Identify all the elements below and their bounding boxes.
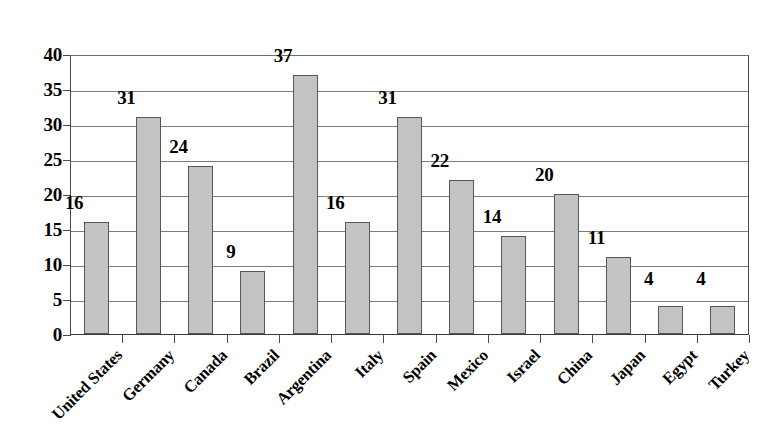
x-axis-tick-mark: [592, 335, 593, 343]
y-axis-tick-label: 40: [16, 45, 62, 64]
bar: [449, 180, 474, 334]
x-axis-tick-mark: [488, 335, 489, 343]
bar: [501, 236, 526, 334]
x-axis-tick-mark: [540, 335, 541, 343]
x-axis-category-label: Japan: [607, 347, 648, 388]
bar-value-label: 9: [209, 242, 253, 261]
y-axis-tick-mark: [63, 335, 71, 336]
x-axis-tick-mark: [227, 335, 228, 343]
y-axis-tick-label: 35: [16, 80, 62, 99]
bar: [658, 306, 683, 334]
x-axis-tick-mark: [436, 335, 437, 343]
bar-value-label: 31: [104, 88, 148, 107]
y-axis-tick-label: 15: [16, 220, 62, 239]
x-axis-tick-mark: [279, 335, 280, 343]
x-axis-tick-mark: [331, 335, 332, 343]
x-axis-tick-mark: [174, 335, 175, 343]
x-axis-category-label: Spain: [400, 347, 440, 387]
x-axis-category-label: Egypt: [660, 347, 701, 388]
x-axis-category-label: Canada: [181, 347, 231, 397]
x-axis-category-label: Italy: [353, 347, 387, 381]
bar: [710, 306, 735, 334]
bar: [554, 194, 579, 334]
bar-value-label: 16: [313, 193, 357, 212]
y-axis-tick-label: 0: [16, 325, 62, 344]
bar: [84, 222, 109, 334]
x-axis-category-label: Israel: [504, 347, 543, 386]
x-axis-tick-mark: [645, 335, 646, 343]
bar-value-label: 14: [470, 207, 514, 226]
y-axis-tick-label: 5: [16, 290, 62, 309]
bar-value-label: 11: [574, 228, 618, 247]
y-axis-tick-label: 25: [16, 150, 62, 169]
bar-value-label: 22: [418, 151, 462, 170]
x-axis-tick-mark: [697, 335, 698, 343]
bar: [240, 271, 265, 334]
x-axis-category-label: Germany: [120, 347, 178, 405]
gridline: [71, 91, 748, 92]
bar-value-label: 24: [157, 137, 201, 156]
y-axis-tick-label: 10: [16, 255, 62, 274]
x-axis-category-label: Turkey: [706, 347, 753, 394]
x-axis-tick-mark: [383, 335, 384, 343]
bar-value-label: 37: [261, 46, 305, 65]
bar-value-label: 4: [679, 269, 723, 288]
x-axis-category-label: Mexico: [444, 347, 491, 394]
bar-chart: 4035302520151050 United StatesGermanyCan…: [0, 0, 779, 443]
x-axis-category-label: Argentina: [274, 347, 335, 408]
x-axis-category-label: China: [555, 347, 596, 388]
x-axis-category-label: Brazil: [241, 347, 282, 388]
y-axis-tick-label: 30: [16, 115, 62, 134]
x-axis-category-label: United States: [50, 347, 126, 423]
x-axis-tick-mark: [122, 335, 123, 343]
bar-value-label: 4: [627, 269, 671, 288]
x-axis-tick-mark: [749, 335, 750, 343]
bar: [397, 117, 422, 334]
bar-value-label: 20: [522, 165, 566, 184]
plot-area: [70, 55, 749, 335]
bar-value-label: 31: [366, 88, 410, 107]
bar: [345, 222, 370, 334]
bar-value-label: 16: [52, 193, 96, 212]
